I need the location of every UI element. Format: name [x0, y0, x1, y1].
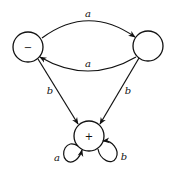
node-minus-label: − [24, 42, 32, 53]
edge-right-minus-a: a [40, 57, 136, 71]
edge-minus-plus-b: b [38, 59, 78, 124]
node-plus-label: + [85, 131, 93, 142]
edge-label: b [121, 151, 127, 162]
edge-right-plus-b: b [100, 58, 139, 124]
state-diagram: − + a a b b a b [0, 0, 171, 173]
edge-minus-right-a: a [42, 8, 135, 38]
edge-label: a [85, 58, 91, 69]
node-plus: + [74, 121, 104, 151]
node-right [133, 31, 163, 61]
node-minus: − [13, 32, 43, 62]
edge-label: a [85, 8, 91, 19]
edge-label: b [125, 85, 131, 96]
edge-label: a [54, 152, 60, 163]
edge-label: b [47, 85, 53, 96]
